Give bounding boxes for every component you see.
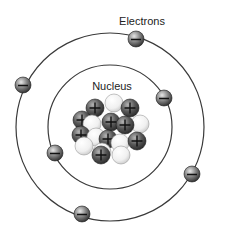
proton-particle [121, 99, 139, 117]
electron [128, 31, 144, 47]
atom-diagram: Electrons Nucleus [0, 0, 227, 239]
nucleus [72, 94, 149, 164]
proton-particle [128, 132, 146, 150]
nucleus-label: Nucleus [92, 80, 132, 92]
electron [156, 90, 172, 106]
neutron-particle [112, 146, 130, 164]
electron [15, 77, 31, 93]
electron [47, 145, 63, 161]
electrons-label: Electrons [119, 15, 165, 27]
electron [74, 206, 90, 222]
proton-particle [92, 146, 110, 164]
electron [184, 166, 200, 182]
neutron-particle [75, 137, 93, 155]
neutron-particle [105, 94, 123, 112]
proton-particle [116, 116, 134, 134]
